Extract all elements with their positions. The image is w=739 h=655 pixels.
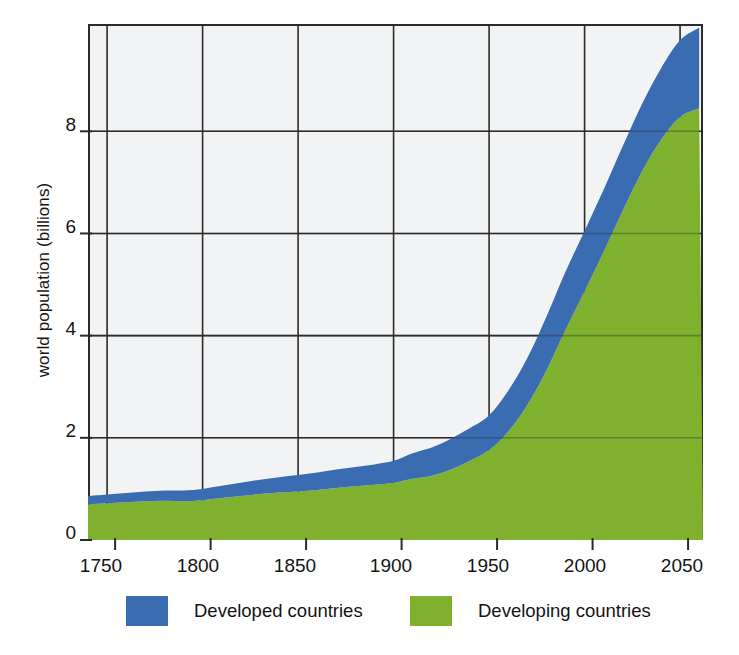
x-tick-label-1750: 1750 — [56, 556, 146, 575]
legend-swatch-developing-icon — [410, 596, 452, 626]
y-tick-label-0: 0 — [42, 523, 76, 542]
legend-swatch-developed-icon — [126, 596, 168, 626]
x-axis-tickmarks — [80, 536, 720, 556]
y-tick-label-6: 6 — [42, 217, 76, 236]
x-tick-label-1850: 1850 — [250, 556, 340, 575]
legend-label-developed: Developed countries — [194, 600, 363, 622]
plot-area — [88, 24, 703, 540]
x-tick-label-2050: 2050 — [637, 556, 727, 575]
x-tick-label-1800: 1800 — [153, 556, 243, 575]
y-tick-label-8: 8 — [42, 115, 76, 134]
area-chart-canvas — [88, 24, 703, 540]
y-tick-label-4: 4 — [42, 319, 76, 338]
y-axis-tickmarks — [72, 18, 94, 548]
legend-item-developed[interactable]: Developed countries — [126, 596, 363, 626]
chart-figure: world population (billions) 0 2 4 6 8 17… — [0, 0, 739, 655]
y-tick-label-2: 2 — [42, 421, 76, 440]
x-tick-label-2000: 2000 — [540, 556, 630, 575]
y-axis-title: world population (billions) — [34, 150, 54, 410]
chart-legend: Developed countries Developing countries — [0, 596, 739, 638]
legend-item-developing[interactable]: Developing countries — [410, 596, 651, 626]
legend-label-developing: Developing countries — [478, 600, 651, 622]
x-tick-label-1900: 1900 — [346, 556, 436, 575]
x-tick-label-1950: 1950 — [443, 556, 533, 575]
